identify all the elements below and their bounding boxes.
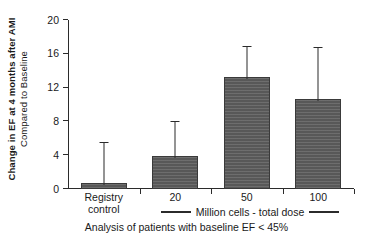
- y-tick-label-8: 8: [53, 115, 59, 127]
- error-bar-cap: [314, 47, 323, 48]
- x-tick-label-line: 100: [283, 191, 355, 203]
- error-bar: [318, 48, 319, 102]
- figure-caption: Analysis of patients with baseline EF < …: [0, 221, 373, 233]
- x-tick-label-20: 20: [140, 191, 212, 203]
- x-tick-4: [354, 189, 355, 194]
- y-axis-title: Change in EF at 4 months after AMI Compa…: [0, 8, 34, 190]
- y-tick-label-20: 20: [47, 14, 59, 26]
- x-axis-label-group: Million cells - total dose: [150, 205, 350, 219]
- x-tick-label-line: 50: [211, 191, 283, 203]
- bar-series: [68, 20, 354, 189]
- y-axis-title-line1: Change in EF at 4 months after AMI: [6, 18, 18, 181]
- x-axis-label: Million cells - total dose: [196, 206, 305, 218]
- legend-rule-right: [309, 211, 339, 213]
- x-tick-label-line: 20: [140, 191, 212, 203]
- y-tick-label-0: 0: [53, 183, 59, 195]
- x-tick-label-100: 100: [283, 191, 355, 203]
- error-bar: [103, 143, 104, 185]
- legend-rule-left: [161, 211, 191, 213]
- bar: [295, 99, 341, 189]
- y-axis-title-text: Change in EF at 4 months after AMI Compa…: [6, 18, 29, 181]
- bar-group: [211, 20, 283, 189]
- error-bar: [246, 47, 247, 79]
- bar: [152, 156, 198, 189]
- chart-figure: Change in EF at 4 months after AMI Compa…: [0, 0, 373, 239]
- error-bar: [175, 122, 176, 158]
- bar-group: [283, 20, 355, 189]
- y-tick-label-12: 12: [47, 81, 59, 93]
- y-tick-label-4: 4: [53, 149, 59, 161]
- bar: [224, 77, 270, 189]
- x-tick-label-line: Registry: [68, 191, 140, 203]
- plot-area: 048121620: [68, 20, 354, 189]
- error-bar-cap: [99, 142, 108, 143]
- bar-group: [140, 20, 212, 189]
- x-tick-label-line: control: [68, 203, 140, 215]
- y-axis-title-line2: Compared to Baseline: [17, 18, 29, 181]
- y-tick-label-16: 16: [47, 47, 59, 59]
- x-tick-label-registry-control: Registrycontrol: [68, 191, 140, 215]
- bar-group: [68, 20, 140, 189]
- error-bar-cap: [171, 121, 180, 122]
- x-tick-label-50: 50: [211, 191, 283, 203]
- error-bar-cap: [242, 46, 251, 47]
